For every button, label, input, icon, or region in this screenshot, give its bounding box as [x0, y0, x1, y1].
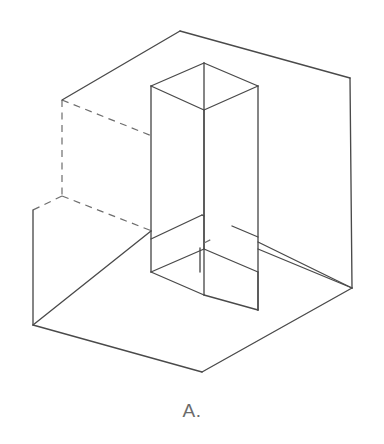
- figure-caption: A.: [0, 400, 384, 422]
- hidden-edge-top-back-left: [62, 100, 152, 136]
- isometric-drawing: [0, 0, 384, 444]
- hidden-edge-floor-back-left: [62, 196, 152, 231]
- column-left-face-fill: [151, 86, 204, 295]
- figure-container: A.: [0, 0, 384, 444]
- box-edge-bottom-front-left: [33, 325, 202, 372]
- box-edge-right-vertical: [350, 78, 352, 288]
- column-right-face-fill: [204, 86, 258, 310]
- box-edge-floor-front-left: [33, 231, 151, 325]
- box-edge-floor-front-right: [258, 249, 352, 288]
- floor-edge-front-apex-right: [258, 242, 352, 288]
- hidden-edge-left-wall-link: [33, 196, 62, 210]
